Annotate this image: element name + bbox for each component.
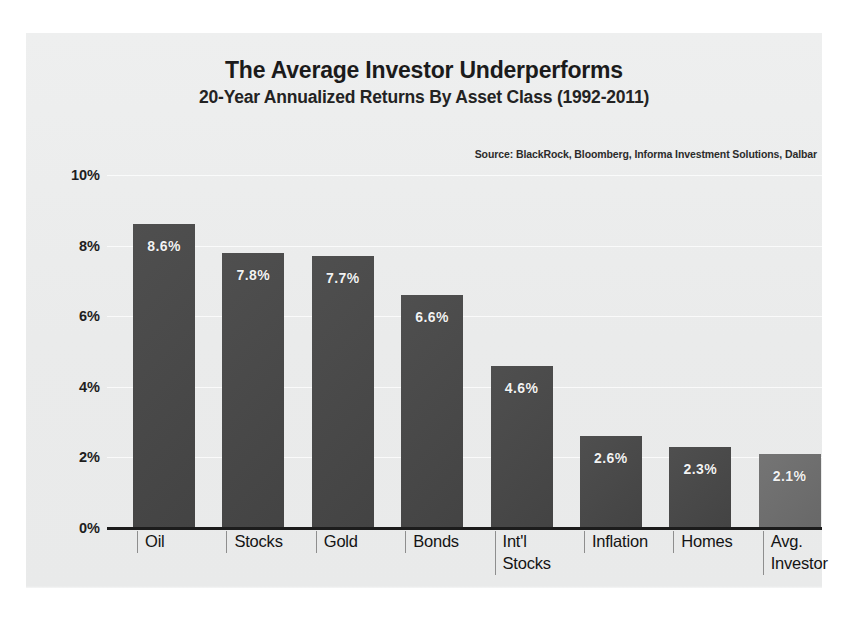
title-block: The Average Investor Underperforms 20-Ye… xyxy=(26,57,822,108)
gridline xyxy=(107,246,822,247)
y-axis-tick-label: 0% xyxy=(48,520,100,536)
x-axis-category-label: Homes xyxy=(673,531,732,553)
chart-subtitle: 20-Year Annualized Returns By Asset Clas… xyxy=(26,87,822,107)
plot-area: 8.6%7.8%7.7%6.6%4.6%2.6%2.3%2.1% xyxy=(107,175,822,528)
bar-value-label: 2.3% xyxy=(669,461,731,477)
bar[interactable]: 8.6% xyxy=(133,224,195,528)
bar[interactable]: 7.8% xyxy=(222,253,284,528)
y-axis-tick-label: 8% xyxy=(48,238,100,254)
x-axis-category-label: Avg. Investor xyxy=(763,531,828,575)
x-axis-category-label: Gold xyxy=(316,531,358,553)
x-axis-line xyxy=(107,527,822,530)
bar-value-label: 7.8% xyxy=(222,267,284,283)
bar-value-label: 2.1% xyxy=(759,468,821,484)
y-axis-tick-label: 10% xyxy=(48,167,100,183)
gridline xyxy=(107,175,822,176)
y-axis-tick-label: 2% xyxy=(48,449,100,465)
bar[interactable]: 6.6% xyxy=(401,295,463,528)
y-axis-tick-label: 4% xyxy=(48,379,100,395)
bar[interactable]: 2.6% xyxy=(580,436,642,528)
gridline xyxy=(107,387,822,388)
bar-value-label: 7.7% xyxy=(312,270,374,286)
bar[interactable]: 7.7% xyxy=(312,256,374,528)
x-axis-category-label: Stocks xyxy=(226,531,282,553)
bar-value-label: 6.6% xyxy=(401,309,463,325)
y-axis-tick-label: 6% xyxy=(48,308,100,324)
bar-value-label: 8.6% xyxy=(133,238,195,254)
x-axis-categories: OilStocksGoldBondsInt'l StocksInflationH… xyxy=(107,531,822,589)
bar-value-label: 4.6% xyxy=(491,380,553,396)
x-axis-category-label: Bonds xyxy=(405,531,459,553)
x-axis-category-label: Inflation xyxy=(584,531,648,553)
bar[interactable]: 4.6% xyxy=(491,366,553,528)
chart-title: The Average Investor Underperforms xyxy=(26,57,822,83)
bar-value-label: 2.6% xyxy=(580,450,642,466)
bar[interactable]: 2.1% xyxy=(759,454,821,528)
bar[interactable]: 2.3% xyxy=(669,447,731,528)
x-axis-category-label: Int'l Stocks xyxy=(495,531,551,575)
chart-figure: The Average Investor Underperforms 20-Ye… xyxy=(0,0,855,620)
y-axis: 0%2%4%6%8%10% xyxy=(44,175,100,528)
source-attribution: Source: BlackRock, Bloomberg, Informa In… xyxy=(475,148,817,160)
x-axis-category-label: Oil xyxy=(137,531,165,553)
gridline xyxy=(107,316,822,317)
